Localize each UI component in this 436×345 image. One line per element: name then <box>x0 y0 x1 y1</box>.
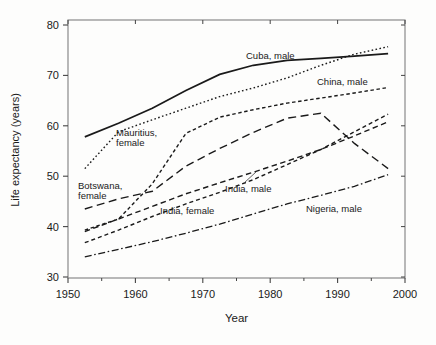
series-line-mauritius-female <box>85 47 388 169</box>
series-label-nigeria-male: Nigeria, male <box>306 203 362 214</box>
x-axis-title: Year <box>68 312 405 324</box>
x-tick-label: 1960 <box>123 288 147 300</box>
y-tick-label: 60 <box>47 120 59 132</box>
y-tick-label: 40 <box>47 221 59 233</box>
x-tick-label: 1990 <box>325 288 349 300</box>
y-tick-label: 50 <box>47 170 59 182</box>
series-label-mauritius-female: Mauritius,female <box>116 127 157 148</box>
life-expectancy-chart: Life expectancy (years) 1950196019701980… <box>0 0 436 345</box>
plot-frame <box>68 20 405 278</box>
y-tick-label: 80 <box>47 19 59 31</box>
x-tick-label: 1980 <box>258 288 282 300</box>
series-label-india-female: India, female <box>160 205 214 216</box>
plot-area: 195019601970198019902000304050607080Cuba… <box>0 0 436 345</box>
series-label-china-male: China, male <box>317 76 368 87</box>
y-tick-label: 70 <box>47 69 59 81</box>
series-label-cuba-male: Cuba, male <box>246 50 295 61</box>
series-label-botswana-female: Botswana,female <box>78 180 122 201</box>
series-label-india-male: India, male <box>225 183 271 194</box>
x-tick-label: 1970 <box>191 288 215 300</box>
y-tick-label: 30 <box>47 271 59 283</box>
x-tick-label: 1950 <box>56 288 80 300</box>
x-tick-label: 2000 <box>393 288 417 300</box>
